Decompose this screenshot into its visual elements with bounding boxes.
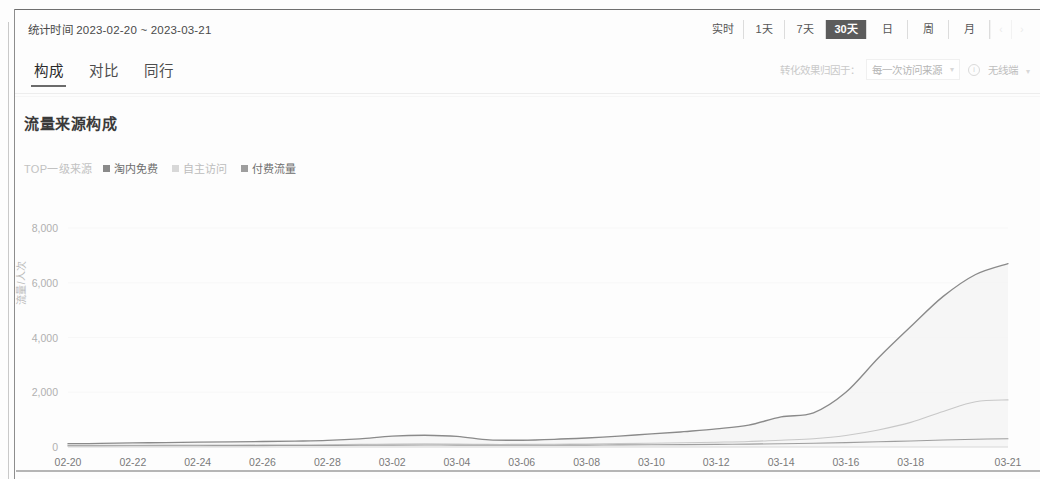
x-axis-tick-12: 03-16 (833, 456, 860, 468)
legend-swatch-icon-taoinei (103, 165, 110, 172)
attribution-label: 转化效果归因于： (780, 62, 860, 77)
series-area-0 (68, 264, 1008, 447)
legend-item-taoinei[interactable]: 淘内免费 (103, 160, 158, 176)
range-btn-30day[interactable]: 30天 (826, 20, 867, 39)
y-axis-tick-4: 8,000 (32, 222, 58, 234)
attribution-controls: 转化效果归因于： 每一次访问来源 ▾ i 无线端 ▾ (780, 59, 1030, 80)
x-axis-tick-4: 02-28 (314, 456, 341, 468)
attribution-select-value: 每一次访问来源 (872, 62, 942, 77)
traffic-chart[interactable]: 流量/人次 02,0004,0006,0008,00002-2002-2202-… (0, 195, 1040, 479)
date-range-button-group[interactable]: 实时 1天 7天 30天 日 周 月 ‹ › (703, 20, 1032, 39)
x-axis-tick-7: 03-06 (508, 456, 535, 468)
legend-item-zizhu[interactable]: 自主访问 (172, 160, 227, 176)
x-axis-tick-10: 03-12 (703, 456, 730, 468)
stat-time-label: 统计时间 2023-02-20 ~ 2023-03-21 (28, 21, 212, 37)
chart-svg: 02,0004,0006,0008,00002-2002-2202-2402-2… (0, 195, 1040, 479)
traffic-source-page: 统计时间 2023-02-20 ~ 2023-03-21 实时 1天 7天 30… (0, 0, 1040, 479)
chevron-down-icon: ▾ (950, 65, 954, 74)
terminal-select[interactable]: 无线端 ▾ (988, 62, 1030, 77)
legend-label-fufei: 付费流量 (252, 160, 296, 176)
tab-composition[interactable]: 构成 (28, 59, 69, 91)
legend-swatch-icon-fufei (241, 165, 248, 172)
prev-period-button[interactable]: ‹ (990, 20, 1011, 39)
range-btn-month[interactable]: 月 (949, 20, 990, 39)
tab-comparison[interactable]: 对比 (83, 59, 124, 91)
y-axis-tick-0: 0 (52, 441, 58, 453)
tab-divider-secondary (15, 96, 1040, 97)
x-axis-tick-8: 03-08 (573, 456, 600, 468)
attribution-select[interactable]: 每一次访问来源 ▾ (866, 59, 960, 80)
x-axis-tick-1: 02-22 (119, 456, 146, 468)
y-axis-tick-2: 4,000 (32, 332, 58, 344)
range-btn-realtime[interactable]: 实时 (703, 20, 744, 39)
chevron-down-icon-terminal: ▾ (1026, 67, 1030, 76)
tab-peers[interactable]: 同行 (138, 59, 179, 91)
legend-label-taoinei: 淘内免费 (114, 160, 158, 176)
tab-divider (15, 93, 1040, 94)
page-title: 流量来源构成 (24, 112, 118, 133)
terminal-select-value: 无线端 (988, 64, 1018, 76)
x-axis-tick-6: 03-04 (444, 456, 471, 468)
x-axis-tick-5: 03-02 (379, 456, 406, 468)
y-axis-tick-3: 6,000 (32, 277, 58, 289)
legend-title: TOP一级来源 (24, 160, 93, 176)
x-axis-tick-11: 03-14 (768, 456, 795, 468)
legend-swatch-icon-zizhu (172, 165, 179, 172)
legend-item-fufei[interactable]: 付费流量 (241, 160, 296, 176)
x-axis-tick-13: 03-18 (897, 456, 924, 468)
x-axis-tick-14: 03-21 (995, 456, 1022, 468)
x-axis-tick-9: 03-10 (638, 456, 665, 468)
tab-list: 构成 对比 同行 (28, 48, 193, 91)
range-btn-week[interactable]: 周 (908, 20, 949, 39)
y-axis-tick-1: 2,000 (32, 386, 58, 398)
y-axis-title: 流量/人次 (13, 260, 28, 305)
info-icon[interactable]: i (968, 64, 980, 76)
next-period-button[interactable]: › (1011, 20, 1032, 39)
range-btn-1day[interactable]: 1天 (744, 20, 785, 39)
x-axis-tick-0: 02-20 (55, 456, 82, 468)
range-btn-7day[interactable]: 7天 (785, 20, 826, 39)
x-axis-tick-2: 02-24 (184, 456, 211, 468)
x-axis-tick-3: 02-26 (249, 456, 276, 468)
chart-legend: TOP一级来源 淘内免费 自主访问 付费流量 (24, 160, 310, 176)
range-btn-day[interactable]: 日 (867, 20, 908, 39)
tab-bar: 构成 对比 同行 转化效果归因于： 每一次访问来源 ▾ i 无线端 ▾ (15, 48, 1040, 91)
legend-label-zizhu: 自主访问 (183, 160, 227, 176)
header-bar: 统计时间 2023-02-20 ~ 2023-03-21 实时 1天 7天 30… (15, 10, 1040, 48)
